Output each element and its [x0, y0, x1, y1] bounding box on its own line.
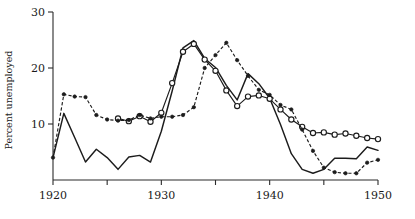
- data-point-marker: [224, 88, 229, 93]
- data-point-marker: [235, 103, 240, 108]
- data-point-marker: [332, 132, 337, 137]
- data-point-marker: [321, 130, 326, 135]
- y-tick-label: 10: [31, 118, 45, 131]
- data-point-marker: [300, 128, 303, 131]
- series-line: [118, 44, 378, 139]
- data-point-marker: [333, 170, 336, 173]
- x-tick-label: 1920: [39, 189, 67, 202]
- data-point-marker: [180, 49, 185, 54]
- data-point-marker: [116, 119, 119, 122]
- data-point-marker: [268, 93, 271, 96]
- data-point-marker: [127, 118, 130, 121]
- data-point-marker: [355, 172, 358, 175]
- data-point-marker: [257, 88, 260, 91]
- y-tick-label: 30: [31, 6, 45, 19]
- y-tick-label: 20: [31, 62, 45, 75]
- data-point-marker: [214, 53, 217, 56]
- data-point-marker: [290, 108, 293, 111]
- data-point-marker: [62, 93, 65, 96]
- data-point-marker: [344, 172, 347, 175]
- x-axis-ticks: 1920193019401950: [39, 180, 392, 202]
- data-point-marker: [95, 113, 98, 116]
- data-point-marker: [84, 95, 87, 98]
- series-1: [115, 41, 380, 141]
- data-point-marker: [51, 156, 54, 159]
- y-axis-ticks: 102030: [31, 6, 53, 131]
- data-point-marker: [376, 158, 379, 161]
- data-point-marker: [191, 41, 196, 46]
- data-point-marker: [256, 93, 261, 98]
- data-point-marker: [322, 166, 325, 169]
- chart-svg: Percent unemployed 102030 19201930194019…: [0, 0, 415, 219]
- y-axis-label: Percent unemployed: [3, 51, 14, 150]
- x-tick-label: 1950: [364, 189, 392, 202]
- data-point-marker: [73, 95, 76, 98]
- data-point-marker: [203, 66, 206, 69]
- series-line: [53, 41, 378, 174]
- data-point-marker: [310, 130, 315, 135]
- data-point-marker: [375, 137, 380, 142]
- data-point-marker: [289, 117, 294, 122]
- data-point-marker: [160, 115, 163, 118]
- data-point-marker: [246, 74, 249, 77]
- data-point-marker: [138, 113, 141, 116]
- data-point-marker: [170, 115, 173, 118]
- series-layer: [51, 41, 380, 175]
- data-point-marker: [343, 131, 348, 136]
- data-point-marker: [365, 161, 368, 164]
- data-point-marker: [181, 113, 184, 116]
- data-point-marker: [278, 107, 283, 112]
- data-point-marker: [279, 103, 282, 106]
- data-point-marker: [354, 133, 359, 138]
- data-point-marker: [192, 106, 195, 109]
- series-0: [53, 41, 378, 174]
- data-point-marker: [202, 57, 207, 62]
- x-tick-label: 1940: [256, 189, 284, 202]
- data-point-marker: [365, 135, 370, 140]
- x-tick-label: 1930: [147, 189, 175, 202]
- data-point-marker: [149, 117, 152, 120]
- unemployment-line-chart: Percent unemployed 102030 19201930194019…: [0, 0, 415, 219]
- data-point-marker: [213, 68, 218, 73]
- data-point-marker: [170, 81, 175, 86]
- data-point-marker: [159, 110, 164, 115]
- data-point-marker: [225, 41, 228, 44]
- y-axis-label-group: Percent unemployed: [3, 51, 14, 150]
- data-point-marker: [245, 94, 250, 99]
- data-point-marker: [311, 149, 314, 152]
- axes-group: [53, 12, 378, 180]
- series-2: [51, 41, 379, 175]
- data-point-marker: [105, 118, 108, 121]
- data-point-marker: [235, 58, 238, 61]
